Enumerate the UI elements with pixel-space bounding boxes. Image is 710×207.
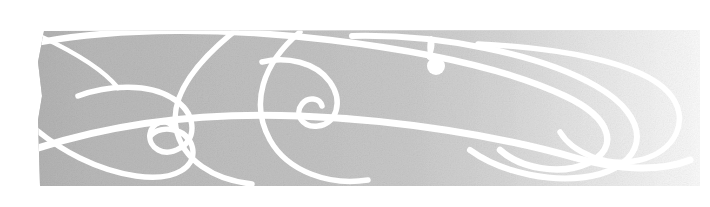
gradient-band (30, 28, 705, 190)
banner-graphic (0, 0, 710, 207)
decorative-banner: Decorative calligraphic flourish banner (0, 0, 710, 207)
